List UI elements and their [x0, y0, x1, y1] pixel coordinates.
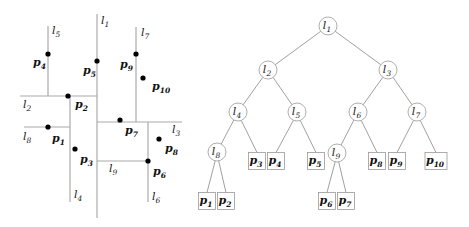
point-label-p9: p9: [120, 58, 134, 73]
point-p7: [117, 117, 122, 122]
tree-edge-l3-l7: [393, 77, 412, 104]
split-line-label-l9: l9: [109, 162, 118, 177]
point-label-p4: p4: [33, 56, 46, 71]
point-p8: [156, 136, 161, 141]
split-line-label-l4: l4: [74, 188, 83, 203]
split-line-label-l3: l3: [172, 123, 181, 138]
point-p10: [140, 75, 145, 80]
point-label-p3: p3: [80, 153, 93, 168]
point-p9: [133, 51, 138, 56]
tree-edge-l5-p5: [300, 120, 316, 152]
point-label-p6: p6: [153, 165, 167, 180]
point-label-p10: p10: [152, 80, 171, 95]
split-line-label-l5: l5: [52, 24, 61, 39]
tree-edge-l6-p8: [361, 120, 377, 152]
tree-edge-l8-p1: [207, 161, 215, 193]
tree-edge-l7-p10: [420, 120, 436, 152]
plane-partition: l1l2l3l4l5l6l7l8l9p1p2p3p4p5p6p7p8p9p10: [20, 14, 182, 218]
tree-edge-l9-p7: [339, 162, 346, 193]
tree-edge-l7-p9: [397, 120, 414, 152]
tree-edge-l8-p2: [219, 161, 226, 193]
point-p5: [94, 58, 99, 63]
point-label-p1: p1: [52, 132, 65, 147]
tree-edge-l1-l3: [335, 31, 380, 64]
tree-edge-l4-l8: [221, 120, 234, 144]
tree-edge-l2-l4: [243, 77, 263, 104]
point-label-p8: p8: [165, 142, 179, 157]
kd-tree: l1l2l3l4l5l6l7l8l9p1p2p3p4p5p6p7p8p9p10: [199, 17, 448, 210]
point-p1: [45, 124, 50, 129]
tree-edge-l3-l6: [363, 77, 383, 104]
tree-edge-l5-p4: [276, 120, 293, 152]
tree-edge-l2-l5: [273, 77, 292, 104]
tree-edge-l1-l2: [275, 31, 320, 64]
tree-edge-l9-p6: [327, 162, 335, 193]
split-line-label-l1: l1: [101, 14, 109, 29]
point-label-p2: p2: [75, 98, 88, 113]
tree-edge-l4-p3: [241, 120, 257, 152]
split-line-label-l2: l2: [23, 98, 32, 113]
point-p4: [45, 51, 50, 56]
point-p6: [145, 158, 150, 163]
point-p2: [65, 93, 70, 98]
split-line-label-l8: l8: [23, 130, 32, 145]
point-label-p7: p7: [125, 124, 139, 139]
tree-edge-l6-l9: [341, 120, 354, 145]
split-line-label-l6: l6: [152, 190, 161, 205]
point-label-p5: p5: [83, 64, 96, 79]
kd-tree-figure: l1l2l3l4l5l6l7l8l9p1p2p3p4p5p6p7p8p9p10 …: [0, 0, 469, 227]
split-line-label-l7: l7: [141, 26, 150, 41]
point-p3: [72, 146, 77, 151]
